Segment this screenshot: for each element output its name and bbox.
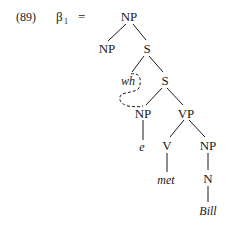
example-number: (89) (16, 10, 36, 24)
edge-s-outer-s-inner (149, 56, 163, 72)
node-s-outer: S (143, 41, 150, 56)
node-np-left: NP (99, 41, 116, 56)
node-e: e (139, 140, 145, 154)
node-vp: VP (178, 106, 195, 121)
edge-np-root-s-outer (133, 24, 146, 40)
node-met: met (157, 173, 175, 187)
edge-vp-np-obj (189, 120, 205, 137)
edge-np-root-np-left (108, 24, 126, 41)
tree-nodes: NP NP S wh S NP VP e V NP met N Bill (99, 9, 218, 218)
node-np-subj: NP (135, 106, 152, 121)
edge-s-outer-wh (132, 56, 144, 72)
equals-sign: = (78, 9, 85, 24)
node-s-inner: S (161, 73, 168, 88)
node-bill: Bill (199, 204, 217, 218)
node-np-obj: NP (200, 138, 217, 153)
edge-s-inner-vp (167, 88, 183, 105)
beta-symbol: β (56, 9, 63, 24)
beta-subscript: 1 (64, 17, 68, 26)
node-wh: wh (121, 74, 135, 88)
beta-label: β 1 = (56, 9, 85, 26)
edge-s-inner-np-subj (146, 88, 162, 105)
syntax-tree-diagram: (89) β 1 = NP NP S wh (0, 0, 227, 230)
node-v: V (162, 138, 172, 153)
node-n: N (203, 171, 213, 186)
edge-vp-v (170, 120, 184, 137)
node-np-root: NP (121, 9, 138, 24)
